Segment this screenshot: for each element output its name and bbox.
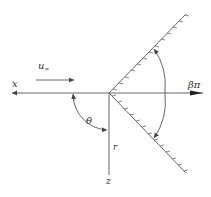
lower-wall-hatching: [112, 95, 188, 171]
radial-label: r: [113, 143, 117, 152]
wedge-angle-arc-lower: [154, 95, 165, 138]
theta-label: θ: [86, 116, 92, 126]
wedge-angle-label: βπ: [188, 80, 200, 90]
freestream-velocity-label: u∞: [38, 61, 49, 72]
diagram-drawing: [0, 0, 211, 197]
wedge-angle-arc: [154, 49, 165, 91]
freestream-subscript: ∞: [44, 65, 49, 72]
wedge-flow-diagram: x u∞ θ r z βπ: [0, 0, 211, 197]
upper-wedge-wall: [109, 14, 186, 93]
z-axis-label: z: [106, 177, 111, 186]
x-axis-label: x: [12, 79, 18, 89]
lower-wedge-wall: [109, 93, 186, 173]
upper-wall-hatching: [113, 15, 189, 90]
